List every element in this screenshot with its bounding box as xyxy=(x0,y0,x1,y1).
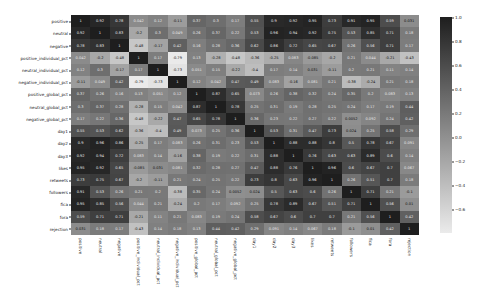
heatmap-cell: 0.081 xyxy=(303,76,322,88)
heatmap-cell: 0.47 xyxy=(245,162,264,174)
heatmap-cell: 0.71 xyxy=(110,211,129,223)
heatmap-cell: 0.8 xyxy=(322,137,341,149)
heatmap-cell: -0.1 xyxy=(400,186,419,198)
heatmap-cell: 0.23 xyxy=(264,113,283,125)
x-tick-label: fica xyxy=(368,236,373,246)
heatmap-cell: 1 xyxy=(264,137,283,149)
heatmap-cell: 0.21 xyxy=(342,52,361,64)
heatmap-cell: 0.22 xyxy=(322,113,341,125)
y-tick-label: day2 xyxy=(58,141,71,146)
heatmap-cell: 0.92 xyxy=(90,162,109,174)
heatmap-cell: -0.43 xyxy=(129,223,148,235)
heatmap-cell: 0.12 xyxy=(148,15,167,27)
heatmap-cell: 0.22 xyxy=(226,149,245,161)
heatmap-cell: 0.081 xyxy=(168,162,187,174)
heatmap-cell: 0.55 xyxy=(245,15,264,27)
heatmap-cell: -0.28 xyxy=(129,101,148,113)
heatmap-cell: -0.48 xyxy=(129,39,148,51)
heatmap-cell: -0.43 xyxy=(400,52,419,64)
heatmap-cell: -0.24 xyxy=(361,76,380,88)
heatmap-cell: 0.85 xyxy=(361,27,380,39)
heatmap-cell: -0.2 xyxy=(90,52,109,64)
heatmap-cell: 0.51 xyxy=(322,198,341,210)
heatmap-cell: 0.76 xyxy=(284,162,303,174)
colorbar-tick: 0.0 xyxy=(452,135,462,140)
heatmap-cell: 0.073 xyxy=(245,88,264,100)
x-tick-label: rejection xyxy=(407,236,412,256)
y-tick-label: followers xyxy=(49,190,71,195)
heatmap-cell: 0.25 xyxy=(245,101,264,113)
heatmap-cell: 0.073 xyxy=(187,125,206,137)
heatmap-cell: 0.56 xyxy=(110,198,129,210)
heatmap-cell: 0.042 xyxy=(206,76,225,88)
heatmap-cell: 0.031 xyxy=(71,223,90,235)
heatmap-cell: 0.88 xyxy=(303,137,322,149)
heatmap-cell: 0.044 xyxy=(361,52,380,64)
heatmap-cell: 0.7 xyxy=(322,211,341,223)
heatmap-cell: -0.21 xyxy=(380,52,399,64)
heatmap-cell: 0.25 xyxy=(206,125,225,137)
y-tick-label: fora xyxy=(60,214,71,219)
heatmap-cell: 0.11 xyxy=(380,64,399,76)
heatmap-cell: 0.049 xyxy=(90,76,109,88)
heatmap-cell: 1 xyxy=(342,186,361,198)
heatmap-cell: -0.11 xyxy=(71,76,90,88)
heatmap-cell: 0.18 xyxy=(400,76,419,88)
heatmap-cell: 0.21 xyxy=(168,174,187,186)
heatmap-cell: 0.42 xyxy=(168,39,187,51)
heatmap-cell: 0.2 xyxy=(187,198,206,210)
heatmap-cell: 0.3 xyxy=(148,27,167,39)
heatmap-cell: 0.21 xyxy=(380,186,399,198)
heatmap-cell: 0.31 xyxy=(284,125,303,137)
heatmap-cell: 0.37 xyxy=(90,101,109,113)
heatmap-cell: 0.83 xyxy=(110,27,129,39)
heatmap-cell: 0.63 xyxy=(284,174,303,186)
heatmap-cell: 0.53 xyxy=(264,125,283,137)
colorbar-tick: −0.6 xyxy=(452,207,465,212)
heatmap-cell: -0.17 xyxy=(110,64,129,76)
heatmap-cell: 0.24 xyxy=(380,113,399,125)
heatmap-cell: 0.73 xyxy=(322,125,341,137)
colorbar-tick: −0.4 xyxy=(452,183,465,188)
heatmap-cell: 1 xyxy=(71,15,90,27)
heatmap-cell: 0.53 xyxy=(90,186,109,198)
y-tick-label: day3 xyxy=(58,153,71,158)
heatmap-cell: 0.63 xyxy=(322,149,341,161)
colorbar-tick-labels: 1.00.80.60.40.20.0−0.2−0.4−0.6 xyxy=(452,17,482,233)
heatmap-cell: 0.86 xyxy=(264,39,283,51)
heatmap-cell: -0.4 xyxy=(148,125,167,137)
heatmap-cell: 0.13 xyxy=(400,88,419,100)
heatmap-cell: 0.9 xyxy=(71,137,90,149)
heatmap-cell: 0.25 xyxy=(206,174,225,186)
heatmap-cell: 0.42 xyxy=(226,223,245,235)
heatmap-cell: 0.67 xyxy=(264,211,283,223)
y-tick-label: positive xyxy=(52,19,71,24)
heatmap-cell: 0.14 xyxy=(400,64,419,76)
heatmap-cell: 0.96 xyxy=(264,27,283,39)
heatmap-cell: 0.83 xyxy=(90,39,109,51)
y-tick-label: day1 xyxy=(58,129,71,134)
heatmap-cell: 0.27 xyxy=(303,113,322,125)
heatmap-cell: -0.38 xyxy=(342,76,361,88)
y-tick-label: neutral_individual_pct xyxy=(22,68,71,73)
heatmap-cell: 0.92 xyxy=(90,15,109,27)
heatmap-cell: -0.11 xyxy=(168,15,187,27)
colorbar-tick: 1.0 xyxy=(452,15,462,20)
heatmap-cell: 0.42 xyxy=(400,113,419,125)
heatmap-cell: 0.0052 xyxy=(226,186,245,198)
colorbar-tick: 0.8 xyxy=(452,39,462,44)
heatmap-cell: 0.71 xyxy=(342,198,361,210)
heatmap-cell: 0.092 xyxy=(226,198,245,210)
heatmap-cell: 0.32 xyxy=(187,162,206,174)
heatmap-cell: 0.083 xyxy=(264,76,283,88)
y-tick-label: rejection xyxy=(50,226,71,231)
x-tick-label: day1 xyxy=(252,236,257,248)
heatmap-cell: 0.26 xyxy=(322,186,341,198)
heatmap-cell: 0.78 xyxy=(264,198,283,210)
heatmap-cell: 0.67 xyxy=(380,137,399,149)
x-tick-label: positive_global_pct xyxy=(194,236,199,278)
x-tick-label: day2 xyxy=(272,236,277,248)
heatmap-cell: 1 xyxy=(245,125,264,137)
heatmap-cell: 0.28 xyxy=(110,101,129,113)
heatmap-cell: 0.78 xyxy=(226,101,245,113)
